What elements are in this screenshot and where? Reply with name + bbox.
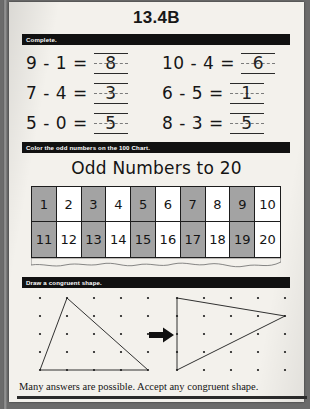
number-cell[interactable]: 6 [156, 187, 181, 222]
answer-value: 8 [94, 52, 128, 74]
geoboard-dot [93, 333, 95, 335]
geoboard-dot [120, 333, 122, 335]
geoboard-dot [39, 351, 41, 353]
number-cell[interactable]: 17 [181, 222, 206, 257]
number-cell[interactable]: 20 [255, 222, 280, 257]
number-cell[interactable]: 18 [206, 222, 231, 257]
geoboard-dot [147, 315, 149, 317]
answer-value: 6 [241, 52, 275, 74]
number-cell[interactable]: 11 [32, 222, 57, 257]
number-cell[interactable]: 1 [32, 187, 57, 222]
right-geoboard[interactable] [176, 297, 286, 371]
geoboard-dot [257, 351, 259, 353]
number-cell[interactable]: 14 [106, 222, 131, 257]
geoboard-dot [147, 351, 149, 353]
answer-blank[interactable]: 3 [94, 83, 128, 104]
answer-value: 5 [94, 112, 128, 134]
number-cell[interactable]: 2 [57, 187, 82, 222]
answer-blank[interactable]: 1 [230, 83, 264, 104]
geoboard-dot [230, 333, 232, 335]
geoboard-dot [66, 351, 68, 353]
number-cell[interactable]: 3 [82, 187, 107, 222]
scanned-worksheet-page: 13.4B Complete. 9 - 1 = 8 10 - 4 = [0, 0, 310, 409]
answer-blank[interactable]: 5 [230, 113, 264, 134]
geoboard-dot [203, 369, 205, 371]
geoboard-dot [66, 315, 68, 317]
banner-complete: Complete. [22, 34, 290, 45]
geoboard-dot [284, 333, 286, 335]
geoboard-dot [230, 315, 232, 317]
number-cell[interactable]: 5 [131, 187, 156, 222]
problem-expression: 6 - 5 = [162, 83, 224, 103]
answer-value: 5 [230, 112, 264, 134]
problem-item: 6 - 5 = 1 [156, 78, 294, 108]
worksheet-paper: 13.4B Complete. 9 - 1 = 8 10 - 4 = [9, 2, 304, 402]
geoboard-dot [257, 297, 259, 299]
problem-row: 5 - 0 = 5 8 - 3 = 5 [22, 108, 294, 138]
geoboard-dot [93, 297, 95, 299]
problem-item: 8 - 3 = 5 [156, 108, 294, 138]
right-arrow-icon [149, 327, 175, 343]
answer-value: 1 [230, 82, 264, 104]
problem-row: 7 - 4 = 3 6 - 5 = 1 [22, 78, 294, 108]
banner-color-odd-numbers: Color the odd numbers on the 100 Chart. [22, 142, 290, 153]
torn-paper-edge [31, 258, 281, 270]
geoboard-dot [203, 315, 205, 317]
problem-expression: 10 - 4 = [162, 53, 235, 73]
problem-item: 10 - 4 = 6 [156, 48, 294, 78]
number-cell[interactable]: 19 [230, 222, 255, 257]
book-spine-shadow [3, 0, 7, 409]
number-cell[interactable]: 16 [156, 222, 181, 257]
geoboard-dot [257, 369, 259, 371]
number-cell[interactable]: 8 [206, 187, 231, 222]
geoboard-dot [203, 297, 205, 299]
subtraction-problems: 9 - 1 = 8 10 - 4 = 6 [22, 48, 294, 138]
geoboard-dot [93, 351, 95, 353]
answer-blank[interactable]: 6 [241, 53, 275, 74]
number-cell[interactable]: 12 [57, 222, 82, 257]
footer-note: Many answers are possible. Accept any co… [19, 381, 299, 392]
number-cell[interactable]: 9 [230, 187, 255, 222]
problem-row: 9 - 1 = 8 10 - 4 = 6 [22, 48, 294, 78]
geoboard-dot [120, 315, 122, 317]
geoboard-dot [203, 333, 205, 335]
number-cell[interactable]: 4 [106, 187, 131, 222]
geoboard-dot [230, 297, 232, 299]
problem-item: 5 - 0 = 5 [26, 108, 156, 138]
answer-value: 3 [94, 82, 128, 104]
problem-expression: 5 - 0 = [26, 113, 88, 133]
problem-item: 7 - 4 = 3 [26, 78, 156, 108]
footer-rule [17, 396, 307, 399]
geoboard-dot [284, 297, 286, 299]
geoboard-dot [120, 297, 122, 299]
number-cell[interactable]: 13 [82, 222, 107, 257]
problem-expression: 8 - 3 = [162, 113, 224, 133]
geoboard-dot [120, 351, 122, 353]
geoboard-dot [257, 315, 259, 317]
number-cell[interactable]: 10 [255, 187, 280, 222]
problem-item: 9 - 1 = 8 [26, 48, 156, 78]
banner-draw-congruent-shape: Draw a congruent shape. [22, 277, 290, 288]
left-geoboard[interactable] [39, 297, 149, 371]
answer-blank[interactable]: 8 [94, 53, 128, 74]
geoboard-dot [230, 351, 232, 353]
geoboard-dot [39, 333, 41, 335]
geoboard-dot [230, 369, 232, 371]
geoboard-dot [39, 297, 41, 299]
number-cell[interactable]: 15 [131, 222, 156, 257]
geoboard-dot [66, 333, 68, 335]
geoboard-dot [257, 333, 259, 335]
page-title: 13.4B [9, 8, 304, 28]
geoboard-dot [147, 297, 149, 299]
answer-blank[interactable]: 5 [94, 113, 128, 134]
problem-expression: 7 - 4 = [26, 83, 88, 103]
problem-expression: 9 - 1 = [26, 53, 88, 73]
number-cell[interactable]: 7 [181, 187, 206, 222]
geoboard-dot [284, 351, 286, 353]
geoboard-dot [203, 351, 205, 353]
geoboard-dot [93, 315, 95, 317]
geoboard-dot [284, 369, 286, 371]
odd-numbers-chart-heading: Odd Numbers to 20 [9, 158, 304, 178]
geoboard-dot [39, 315, 41, 317]
number-chart-grid: 1234567891011121314151617181920 [31, 186, 281, 258]
